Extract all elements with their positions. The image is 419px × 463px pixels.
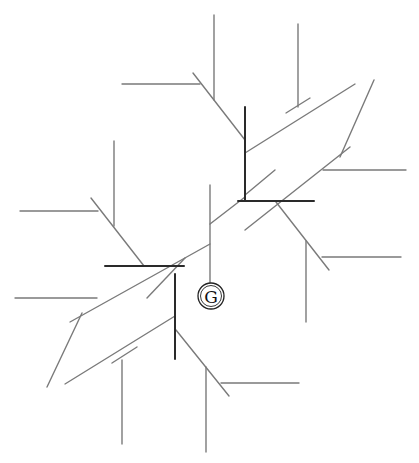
branch-segment: [47, 313, 82, 387]
center-node-g: G: [198, 283, 224, 309]
branch-segment: [245, 84, 355, 153]
branch-segment: [147, 258, 185, 298]
branch-segment: [276, 202, 329, 270]
branch-segment: [193, 73, 245, 140]
branch-segment: [112, 347, 137, 363]
branched-tree-diagram: G: [0, 0, 419, 463]
branch-segment: [176, 330, 229, 396]
branch-segment: [245, 147, 350, 230]
branch-segment: [91, 198, 144, 266]
branch-segment: [340, 80, 374, 157]
branch-segment: [65, 316, 175, 384]
node-label: G: [204, 287, 218, 307]
branch-segment: [70, 244, 210, 322]
thin-branch-lines: [15, 15, 406, 452]
branch-segment: [245, 170, 275, 195]
